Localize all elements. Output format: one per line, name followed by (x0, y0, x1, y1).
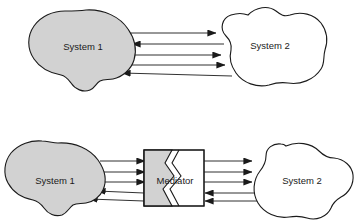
mediated-coupling-panel: System 1 Mediator System 2 (5, 141, 353, 219)
diagram-canvas: System 1 System 2 System 1 (0, 0, 355, 223)
system-2-label: System 2 (250, 40, 290, 51)
connector-mediator-to-s1-b (89, 199, 144, 201)
connector-s2-to-s1-b (122, 73, 232, 76)
system-1-label: System 1 (63, 41, 103, 52)
connector-group-top (122, 33, 232, 76)
connector-mediator-to-s1-a (97, 191, 144, 193)
system-1-label: System 1 (35, 175, 75, 186)
mediator-label: Mediator (157, 175, 194, 186)
system-2-label: System 2 (282, 175, 322, 186)
direct-coupling-panel: System 1 System 2 (29, 8, 327, 92)
